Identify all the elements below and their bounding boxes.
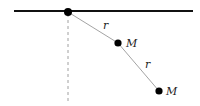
rod-2 <box>118 43 159 91</box>
mass-2-label: M <box>165 85 178 98</box>
pivot-point <box>64 8 72 16</box>
rod-2-label: r <box>145 58 151 71</box>
mass-1 <box>114 39 121 46</box>
rod-1-label: r <box>103 19 109 32</box>
mass-1-label: M <box>125 37 138 50</box>
mass-2 <box>155 87 162 94</box>
rod-1 <box>68 12 118 43</box>
double-pendulum-diagram: r r M M <box>0 0 200 106</box>
